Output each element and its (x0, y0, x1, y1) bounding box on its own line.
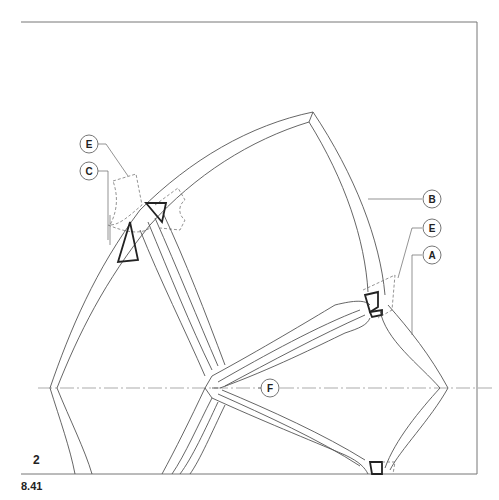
callout-C: C (80, 162, 98, 180)
top-right-member (309, 112, 385, 295)
drawing-canvas: E C B E A F 2 8.41 (0, 0, 499, 500)
callout-F: F (261, 379, 279, 397)
drawing-frame (21, 22, 477, 474)
bar-hub-to-right-joint (212, 301, 370, 388)
upper-left-joint-detail (108, 174, 185, 262)
bar-hub-to-bottom (162, 388, 225, 474)
svg-text:A: A (428, 250, 435, 261)
right-lower-member (380, 305, 448, 470)
callout-E-left: E (80, 135, 98, 153)
svg-text:F: F (267, 383, 273, 394)
technical-drawing: E C B E A F 2 8.41 (0, 0, 499, 500)
right-upper-joint-detail (363, 275, 395, 318)
leader-lines (98, 144, 422, 388)
figure-reference: 8.41 (21, 480, 42, 492)
callout-B: B (423, 190, 441, 208)
panel-number: 2 (33, 453, 40, 467)
diagonal-member-upper-left (140, 213, 225, 376)
svg-text:E: E (86, 139, 93, 150)
svg-text:C: C (85, 166, 92, 177)
svg-text:E: E (429, 223, 436, 234)
callout-A: A (423, 246, 441, 264)
svg-text:B: B (428, 194, 435, 205)
hub-node (205, 376, 218, 398)
callout-E-right: E (423, 219, 441, 237)
bar-hub-to-lower-right (212, 390, 368, 474)
